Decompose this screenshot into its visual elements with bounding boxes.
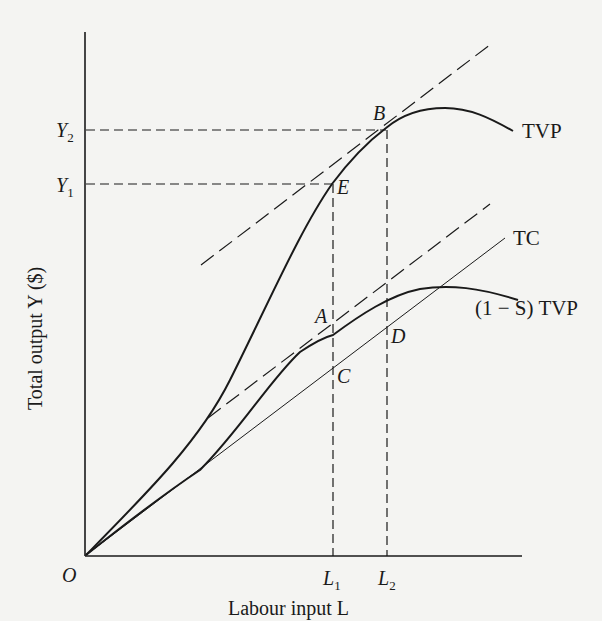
- y2-label: Y2: [56, 119, 74, 145]
- y-axis-title: Total output Y ($): [24, 267, 47, 410]
- l1-label: L1: [322, 567, 341, 593]
- point-b-label: B: [373, 102, 385, 124]
- x-axis-title: Labour input L: [228, 597, 349, 620]
- tvp-tangent-line: [201, 44, 491, 265]
- labour-output-diagram: Y2 Y1 L1 L2 O Labour input L Total outpu…: [0, 0, 602, 621]
- point-a-label: A: [313, 305, 328, 327]
- tvp-curve: [86, 108, 513, 555]
- point-c-label: C: [337, 365, 351, 387]
- point-e-label: E: [336, 176, 349, 198]
- net-tvp-curve: [86, 287, 518, 555]
- point-d-label: D: [390, 325, 406, 347]
- net-tvp-label: (1 − S) TVP: [475, 296, 578, 320]
- tc-label: TC: [513, 226, 540, 250]
- l2-label: L2: [377, 567, 396, 593]
- tvp-label: TVP: [522, 119, 562, 143]
- y1-label: Y1: [56, 174, 74, 200]
- origin-label: O: [62, 564, 76, 586]
